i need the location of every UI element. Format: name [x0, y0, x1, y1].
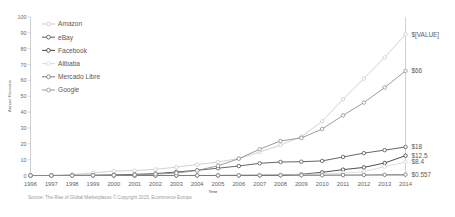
data-point — [341, 155, 345, 159]
x-tick-label: 2008 — [274, 181, 287, 187]
legend-item-google[interactable]: Google — [42, 86, 80, 94]
data-point — [279, 160, 283, 164]
data-point — [279, 174, 283, 178]
data-point — [195, 163, 199, 167]
legend-marker-icon — [47, 35, 51, 39]
legend-label: Amazon — [58, 20, 83, 27]
series-line — [31, 34, 406, 175]
data-point — [404, 173, 408, 177]
data-point — [362, 151, 366, 155]
data-point — [362, 101, 366, 105]
data-point — [341, 173, 345, 177]
data-point — [216, 164, 220, 168]
legend-item-mercado-libre[interactable]: Mercado Libre — [42, 73, 100, 80]
legend-label: Mercado Libre — [58, 73, 100, 80]
data-point — [237, 174, 241, 178]
x-tick-label: 2007 — [253, 181, 266, 187]
data-point — [341, 114, 345, 118]
data-point — [216, 160, 220, 164]
legend-marker-icon — [47, 62, 51, 66]
data-point — [279, 143, 283, 147]
y-tick-label: 30 — [21, 125, 27, 131]
data-point — [404, 33, 408, 37]
data-point — [258, 162, 262, 166]
series-line — [31, 71, 406, 176]
end-value-label: $18 — [412, 143, 423, 150]
legend-label: Google — [58, 86, 80, 94]
data-point — [404, 160, 408, 164]
x-tick-label: 1998 — [66, 181, 79, 187]
x-tick-label: 1996 — [24, 181, 37, 187]
y-tick-label: 80 — [21, 46, 27, 52]
data-point — [341, 168, 345, 172]
data-point — [70, 174, 74, 178]
data-point — [195, 169, 199, 173]
chart-container: 0102030405060708090100 19961997199819992… — [0, 0, 455, 217]
end-value-label: $[VALUE] — [412, 31, 440, 39]
plot-frame — [31, 17, 406, 176]
legend-item-facebook[interactable]: Facebook — [42, 47, 88, 54]
revenue-line-chart: 0102030405060708090100 19961997199819992… — [0, 0, 455, 217]
legend-marker-icon — [47, 49, 51, 53]
x-tick-label: 2002 — [149, 181, 162, 187]
data-point — [237, 157, 241, 161]
data-point — [404, 145, 408, 149]
data-point — [279, 139, 283, 143]
x-tick-label: 1997 — [45, 181, 58, 187]
legend-item-alibaba[interactable]: Alibaba — [42, 60, 80, 67]
data-point — [112, 173, 116, 177]
data-point — [383, 173, 387, 177]
y-tick-label: 20 — [21, 141, 27, 147]
data-point — [404, 154, 408, 158]
data-point — [258, 147, 262, 151]
x-axis-title: Year — [209, 189, 218, 194]
data-point — [362, 77, 366, 81]
x-tick-label: 2009 — [295, 181, 308, 187]
data-point — [91, 174, 95, 178]
legend-item-amazon[interactable]: Amazon — [42, 20, 83, 27]
source-caption: Source: The Rise of Global Marketplaces … — [28, 194, 192, 200]
data-point — [383, 161, 387, 165]
data-point — [195, 174, 199, 178]
x-tick-label: 2003 — [170, 181, 183, 187]
legend-marker-icon — [47, 88, 51, 92]
data-point — [383, 56, 387, 60]
data-point — [320, 127, 324, 131]
data-point — [216, 174, 220, 178]
x-tick-label: 2013 — [378, 181, 391, 187]
y-tick-label: 70 — [21, 62, 27, 68]
chart-legend: AmazoneBayFacebookAlibabaMercado LibreGo… — [42, 20, 100, 94]
data-point — [29, 174, 33, 178]
data-point — [320, 120, 324, 124]
data-point — [320, 173, 324, 177]
data-point — [258, 174, 262, 178]
data-point — [383, 86, 387, 90]
legend-marker-icon — [47, 22, 51, 26]
data-point — [383, 148, 387, 152]
end-value-label: $0.557 — [412, 171, 432, 178]
data-point — [341, 98, 345, 102]
legend-item-ebay[interactable]: eBay — [42, 34, 74, 42]
y-axis-title: Annual Revenue — [7, 79, 12, 112]
data-point — [175, 165, 179, 169]
data-point — [112, 169, 116, 173]
series-lines — [29, 33, 408, 178]
data-point — [404, 69, 408, 73]
data-point — [133, 173, 137, 177]
x-tick-label: 2011 — [337, 181, 349, 187]
data-point — [362, 173, 366, 177]
end-value-label: $8.4 — [412, 158, 425, 165]
y-axis-ticks: 0102030405060708090100 — [18, 14, 31, 179]
x-tick-label: 2000 — [107, 181, 120, 187]
y-tick-label: 60 — [21, 77, 27, 83]
y-tick-label: 10 — [21, 157, 27, 163]
y-tick-label: 0 — [24, 173, 27, 179]
end-value-label: $66 — [412, 67, 423, 74]
x-tick-label: 2004 — [191, 181, 205, 187]
legend-label: Facebook — [58, 47, 88, 54]
data-point — [175, 171, 179, 175]
x-tick-label: 2005 — [212, 181, 225, 187]
end-value-labels: $[VALUE]$66$18$12.5$8.4$0.557 — [412, 31, 440, 178]
x-tick-label: 2001 — [128, 181, 141, 187]
data-point — [237, 164, 241, 168]
